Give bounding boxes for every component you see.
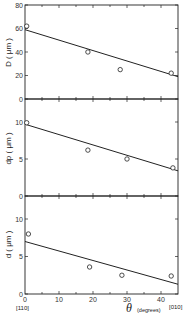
y-tick-label: 40 bbox=[15, 49, 23, 56]
figure: 02040608005100510010203040 bbox=[0, 0, 187, 318]
y-tick-label: 5 bbox=[19, 253, 23, 260]
data-point bbox=[118, 67, 122, 71]
y-tick-label: 10 bbox=[15, 216, 23, 223]
x-tick-label: 40 bbox=[157, 296, 165, 303]
data-point bbox=[169, 71, 173, 75]
y-tick-label: 80 bbox=[15, 2, 23, 9]
y-tick-label: 0 bbox=[19, 193, 23, 200]
y-tick-label: 0 bbox=[19, 96, 23, 103]
fit-line bbox=[25, 30, 178, 77]
panel-frame bbox=[25, 5, 178, 99]
data-point bbox=[86, 148, 90, 152]
data-point bbox=[86, 50, 90, 54]
y-tick-label: 10 bbox=[15, 119, 23, 126]
data-point bbox=[171, 166, 175, 170]
panel-frame bbox=[25, 196, 178, 294]
data-point bbox=[25, 24, 29, 28]
data-point bbox=[125, 157, 129, 161]
data-point bbox=[87, 265, 91, 269]
data-point bbox=[169, 274, 173, 278]
fit-line bbox=[25, 242, 178, 285]
y-tick-label: 20 bbox=[15, 72, 23, 79]
y-tick-label: 5 bbox=[19, 156, 23, 163]
x-tick-label: 20 bbox=[89, 296, 97, 303]
x-tick-label: 30 bbox=[123, 296, 131, 303]
fit-line bbox=[25, 124, 178, 171]
x-tick-label: 10 bbox=[55, 296, 63, 303]
data-point bbox=[26, 232, 30, 236]
x-tick-label: 0 bbox=[23, 296, 27, 303]
data-point bbox=[120, 273, 124, 277]
data-point bbox=[25, 121, 29, 125]
y-tick-label: 60 bbox=[15, 25, 23, 32]
